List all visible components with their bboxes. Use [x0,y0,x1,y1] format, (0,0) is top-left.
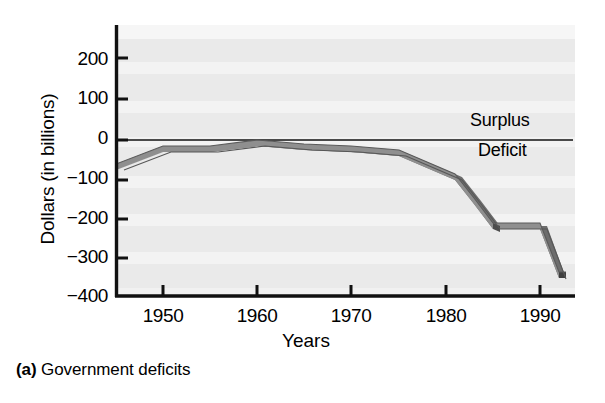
x-tick-label: 1950 [123,305,203,327]
x-axis-title: Years [246,330,366,352]
x-tick-label: 1970 [311,305,391,327]
caption-marker: (a) [16,360,36,379]
figure-government-deficits: Dollars (in billions) 200 100 0 −100 −20… [0,0,605,403]
x-tick-label: 1990 [500,305,580,327]
x-tick-label: 1980 [406,305,486,327]
figure-caption: (a) Government deficits [16,360,190,380]
caption-text: Government deficits [41,360,190,379]
x-tick-label: 1960 [217,305,297,327]
